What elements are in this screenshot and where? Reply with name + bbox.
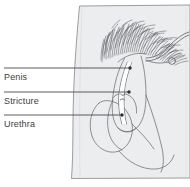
anatomy-figure: Penis Stricture Urethra (0, 0, 190, 187)
label-stricture: Stricture (4, 96, 39, 106)
label-penis: Penis (4, 72, 27, 82)
leader-dot-stricture (127, 90, 130, 93)
leader-dot-penis (128, 66, 131, 69)
label-urethra: Urethra (4, 119, 35, 129)
leader-dot-urethra (120, 113, 123, 116)
anatomy-illustration (0, 0, 190, 187)
